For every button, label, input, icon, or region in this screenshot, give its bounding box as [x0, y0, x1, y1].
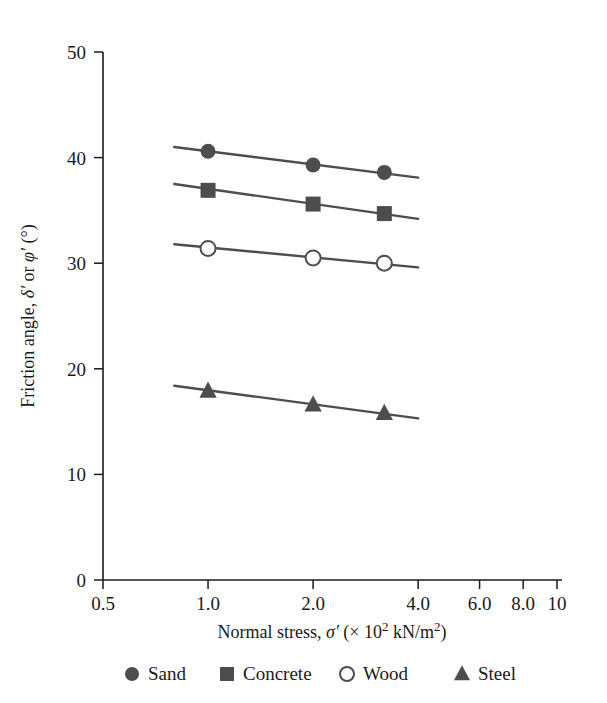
marker-wood [201, 241, 216, 256]
legend-marker-sand [125, 667, 139, 681]
legend-label-sand: Sand [148, 663, 187, 684]
y-tick-label: 0 [77, 570, 87, 591]
x-tick-label: 2.0 [301, 593, 325, 614]
x-tick-label: 0.5 [91, 593, 115, 614]
friction-angle-line-chart: 01020304050 0.51.02.04.06.08.010 Normal … [0, 0, 607, 703]
y-tick-label: 50 [67, 42, 86, 63]
marker-sand [377, 165, 392, 180]
y-tick-label: 40 [67, 148, 86, 169]
legend-label-steel: Steel [478, 663, 516, 684]
x-tick-label: 4.0 [406, 593, 430, 614]
chart-figure: 01020304050 0.51.02.04.06.08.010 Normal … [0, 0, 607, 703]
x-tick-label: 1.0 [196, 593, 220, 614]
x-tick-label: 6.0 [468, 593, 492, 614]
y-tick-label: 20 [67, 359, 86, 380]
marker-wood [306, 250, 321, 265]
y-tick-label: 30 [67, 253, 86, 274]
marker-concrete [377, 206, 392, 221]
legend-label-wood: Wood [363, 663, 408, 684]
marker-sand [201, 144, 216, 159]
legend-label-concrete: Concrete [243, 663, 312, 684]
y-axis-title: Friction angle, δ′ or φ′ (°) [18, 224, 39, 407]
marker-wood [377, 256, 392, 271]
x-tick-label: 10 [548, 593, 567, 614]
marker-concrete [306, 197, 321, 212]
marker-concrete [201, 183, 216, 198]
legend-marker-wood [340, 667, 354, 681]
legend-marker-concrete [220, 667, 234, 681]
y-tick-label: 10 [67, 464, 86, 485]
marker-sand [306, 157, 321, 172]
x-axis-title: Normal stress, σ′ (× 102 kN/m2) [218, 619, 447, 644]
x-tick-label: 8.0 [511, 593, 535, 614]
